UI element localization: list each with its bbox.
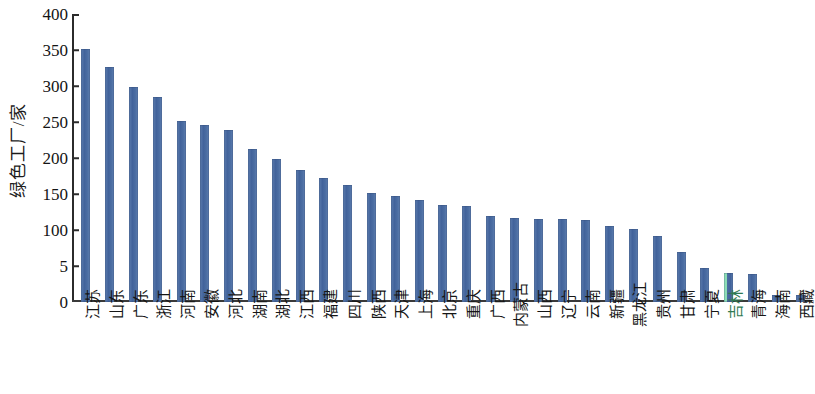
- x-axis-category-label: 吉林: [729, 289, 744, 319]
- y-axis-tick-label: 350: [43, 42, 69, 59]
- bar: [343, 185, 352, 302]
- x-axis-category-label: 山西: [538, 289, 553, 319]
- y-axis-tick-label: 5: [60, 258, 69, 275]
- bar-column: [622, 14, 646, 302]
- x-axis-category-label: 黑龙江: [633, 282, 648, 327]
- bar: [200, 125, 209, 302]
- x-axis-category-label: 辽宁: [562, 289, 577, 319]
- bar: [319, 178, 328, 302]
- x-axis-category-label: 江苏: [86, 289, 101, 319]
- bar: [391, 196, 400, 302]
- bar: [224, 130, 233, 302]
- x-axis-category-label: 海南: [776, 289, 791, 319]
- bar: [462, 206, 471, 302]
- x-axis-category-label: 湖北: [276, 289, 291, 319]
- bar: [296, 170, 305, 302]
- x-axis-category-label: 四川: [348, 289, 363, 319]
- bar-column: [312, 14, 336, 302]
- x-axis-category-label: 河北: [229, 289, 244, 319]
- x-axis-category-label: 广东: [134, 289, 149, 319]
- y-axis-tick-mark: [72, 157, 79, 159]
- bar: [438, 205, 447, 302]
- x-axis-category-label: 西藏: [800, 289, 815, 319]
- x-axis-category-label: 福建: [324, 289, 339, 319]
- x-axis-category-label: 甘肃: [681, 289, 696, 319]
- y-axis-tick-label: 400: [43, 6, 69, 23]
- x-axis-category-label: 重庆: [467, 289, 482, 319]
- bar-column: [241, 14, 265, 302]
- x-axis-category-label: 青海: [752, 289, 767, 319]
- x-axis-category-label: 北京: [443, 289, 458, 319]
- x-axis-category-label: 云南: [586, 289, 601, 319]
- bar-column: [264, 14, 288, 302]
- bar-column: [669, 14, 693, 302]
- bar: [153, 97, 162, 302]
- y-axis-title-text: 绿色工厂/家: [5, 102, 30, 198]
- bar: [272, 159, 281, 302]
- y-axis-tick-label: 100: [43, 222, 69, 239]
- y-axis-tick-mark: [72, 49, 79, 51]
- y-axis-tick-labels: 40035030025020015010050: [32, 14, 68, 302]
- bar-column: [574, 14, 598, 302]
- y-axis-tick-label: 200: [43, 150, 69, 167]
- bar: [415, 200, 424, 302]
- y-axis-tick-mark: [72, 229, 79, 231]
- x-axis-category-label: 内蒙古: [514, 282, 529, 327]
- bar-column: [169, 14, 193, 302]
- y-axis-tick-mark: [72, 265, 79, 267]
- bar-column: [193, 14, 217, 302]
- bar-column: [383, 14, 407, 302]
- bar: [177, 121, 186, 302]
- y-axis-title: 绿色工厂/家: [2, 0, 32, 300]
- x-axis-category-label: 河南: [181, 289, 196, 319]
- y-axis-tick-label: 250: [43, 114, 69, 131]
- y-axis-tick-label: 150: [43, 186, 69, 203]
- bar-column: [479, 14, 503, 302]
- bar-column: [360, 14, 384, 302]
- bar-column: [407, 14, 431, 302]
- plot-area: [74, 14, 812, 302]
- x-axis-category-label: 天津: [395, 289, 410, 319]
- bar-column: [431, 14, 455, 302]
- x-axis-category-labels: 江苏山东广东浙江河南安徽河北湖南湖北江西福建四川陕西天津上海北京重庆广西内蒙古山…: [74, 304, 812, 394]
- bar: [129, 87, 138, 302]
- x-axis-category-label: 广西: [491, 289, 506, 319]
- bar: [81, 49, 90, 302]
- bar-column: [145, 14, 169, 302]
- bar-column: [288, 14, 312, 302]
- bar: [367, 193, 376, 302]
- bar-column: [693, 14, 717, 302]
- bar-column: [764, 14, 788, 302]
- bar-column: [717, 14, 741, 302]
- x-axis-category-label: 山东: [110, 289, 125, 319]
- x-axis-category-label: 新疆: [610, 289, 625, 319]
- bar-column: [645, 14, 669, 302]
- x-axis-category-label: 陕西: [372, 289, 387, 319]
- y-axis-tick-label: 0: [60, 294, 69, 311]
- bar: [248, 149, 257, 302]
- bar: [105, 67, 114, 302]
- x-axis-category-label: 安徽: [205, 289, 220, 319]
- bar-column: [98, 14, 122, 302]
- y-axis-tick-mark: [72, 121, 79, 123]
- bar-chart-figure: 绿色工厂/家 40035030025020015010050 江苏山东广东浙江河…: [0, 0, 815, 394]
- y-axis-tick-label: 300: [43, 78, 69, 95]
- x-axis-category-label: 上海: [419, 289, 434, 319]
- x-axis-category-label: 湖南: [253, 289, 268, 319]
- bar-column: [526, 14, 550, 302]
- x-axis-category-label: 贵州: [657, 289, 672, 319]
- bar-column: [455, 14, 479, 302]
- x-axis-category-label: 浙江: [157, 289, 172, 319]
- y-axis-tick-mark: [72, 85, 79, 87]
- bar-column: [217, 14, 241, 302]
- bar-column: [122, 14, 146, 302]
- bar-column: [788, 14, 812, 302]
- bar-column: [336, 14, 360, 302]
- bar-column: [741, 14, 765, 302]
- x-axis-category-label: 江西: [300, 289, 315, 319]
- bar-column: [550, 14, 574, 302]
- bar-column: [503, 14, 527, 302]
- bar-column: [598, 14, 622, 302]
- y-axis-tick-mark: [72, 193, 79, 195]
- x-axis-category-label: 宁夏: [705, 289, 720, 319]
